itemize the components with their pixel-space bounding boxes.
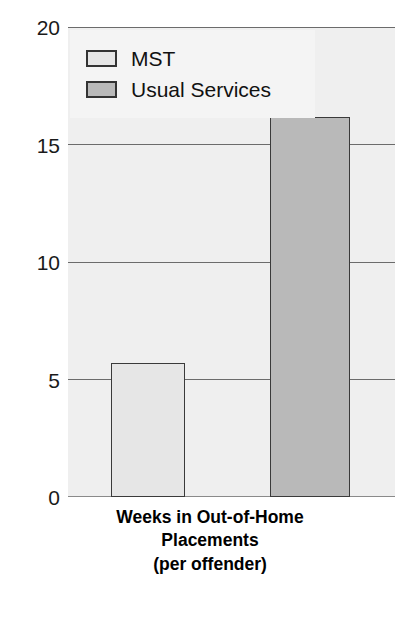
x-axis-label-line-3: (per offender) — [40, 553, 380, 576]
legend-swatch-mst-icon — [86, 50, 117, 67]
y-tick-label-5: 5 — [0, 370, 60, 391]
x-axis-label-line-2: Placements — [40, 529, 380, 552]
y-tick-label-10: 10 — [0, 252, 60, 273]
legend: MST Usual Services — [70, 30, 315, 118]
legend-label-mst: MST — [131, 48, 175, 69]
bar-usual-services — [270, 117, 350, 497]
legend-label-usual-services: Usual Services — [131, 79, 271, 100]
legend-swatch-usual-services-icon — [86, 81, 117, 98]
bar-chart-figure: 20 15 10 5 0 MST Usual Services We — [0, 0, 410, 626]
legend-item-usual-services: Usual Services — [86, 75, 315, 104]
y-tick-label-15: 15 — [0, 135, 60, 156]
y-tick-label-0: 0 — [0, 487, 60, 508]
gridline-20 — [68, 27, 395, 28]
y-tick-label-20: 20 — [0, 17, 60, 38]
legend-item-mst: MST — [86, 44, 315, 73]
bar-mst — [111, 363, 185, 497]
plot-area: MST Usual Services — [68, 27, 395, 497]
x-axis-label: Weeks in Out-of-Home Placements (per off… — [40, 506, 380, 576]
x-axis-label-line-1: Weeks in Out-of-Home — [40, 506, 380, 529]
